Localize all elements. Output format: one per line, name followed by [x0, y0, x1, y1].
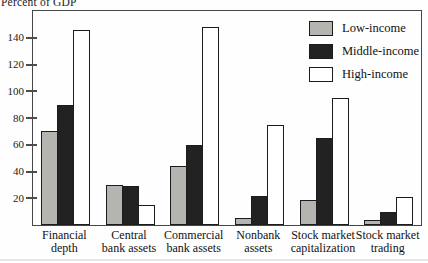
chart-title: Percent of GDP — [1, 0, 77, 8]
legend-item-low-income: Low-income — [309, 21, 419, 36]
y-tick-mark-20 — [26, 197, 37, 199]
y-tick-mark-80 — [26, 117, 37, 119]
y-tick-label-120: 120 — [0, 59, 24, 70]
bar-high-income-nonbank-assets — [267, 125, 284, 225]
page-bottom-rule — [0, 259, 428, 261]
y-tick-label-140: 140 — [0, 32, 24, 43]
bar-low-income-commercial-bank-assets — [170, 166, 187, 225]
legend-item-middle-income: Middle-income — [309, 44, 419, 59]
bar-high-income-financial-depth — [73, 30, 90, 225]
legend: Low-incomeMiddle-incomeHigh-income — [309, 21, 419, 90]
x-label-stock-market-capitalization: Stock marketcapitalization — [291, 229, 356, 255]
bar-middle-income-stock-market-capitalization — [316, 138, 333, 225]
bar-group-central-bank-assets — [98, 11, 163, 225]
x-label-commercial-bank-assets: Commercialbank assets — [161, 229, 226, 255]
bar-high-income-commercial-bank-assets — [202, 27, 219, 225]
bar-group-financial-depth — [33, 11, 98, 225]
bar-middle-income-commercial-bank-assets — [186, 145, 203, 225]
legend-label-middle-income: Middle-income — [342, 44, 419, 59]
bar-middle-income-stock-market-trading — [380, 212, 397, 225]
bar-middle-income-financial-depth — [57, 105, 74, 225]
y-tick-mark-140 — [26, 37, 37, 39]
legend-item-high-income: High-income — [309, 67, 419, 82]
y-tick-label-40: 40 — [0, 166, 24, 177]
bar-low-income-central-bank-assets — [106, 185, 123, 225]
y-tick-label-100: 100 — [0, 86, 24, 97]
legend-swatch-middle-income — [309, 44, 333, 59]
legend-label-high-income: High-income — [342, 67, 408, 82]
y-tick-label-60: 60 — [0, 139, 24, 150]
bar-high-income-stock-market-trading — [396, 197, 413, 225]
plot-area: Low-incomeMiddle-incomeHigh-income 20406… — [32, 10, 422, 226]
y-tick-mark-40 — [26, 171, 37, 173]
x-label-financial-depth: Financialdepth — [32, 229, 97, 255]
legend-swatch-low-income — [309, 21, 333, 36]
legend-label-low-income: Low-income — [342, 21, 406, 36]
x-axis-labels: FinancialdepthCentralbank assetsCommerci… — [32, 229, 420, 255]
bar-group-nonbank-assets — [227, 11, 292, 225]
bar-high-income-central-bank-assets — [138, 205, 155, 225]
bar-low-income-stock-market-trading — [364, 220, 381, 225]
bar-group-commercial-bank-assets — [162, 11, 227, 225]
x-label-nonbank-assets: Nonbankassets — [226, 229, 291, 255]
y-tick-mark-120 — [26, 64, 37, 66]
y-tick-mark-60 — [26, 144, 37, 146]
y-tick-label-20: 20 — [0, 193, 24, 204]
bar-low-income-stock-market-capitalization — [300, 200, 317, 225]
x-label-stock-market-trading: Stock markettrading — [355, 229, 420, 255]
bar-chart-figure: Percent of GDP Low-incomeMiddle-incomeHi… — [0, 0, 428, 263]
bar-low-income-financial-depth — [41, 131, 58, 225]
bar-low-income-nonbank-assets — [235, 218, 252, 225]
y-tick-mark-100 — [26, 90, 37, 92]
bar-middle-income-nonbank-assets — [251, 196, 268, 225]
bar-middle-income-central-bank-assets — [122, 186, 139, 225]
x-label-central-bank-assets: Centralbank assets — [97, 229, 162, 255]
bar-high-income-stock-market-capitalization — [332, 98, 349, 225]
y-tick-label-80: 80 — [0, 113, 24, 124]
legend-swatch-high-income — [309, 67, 333, 82]
